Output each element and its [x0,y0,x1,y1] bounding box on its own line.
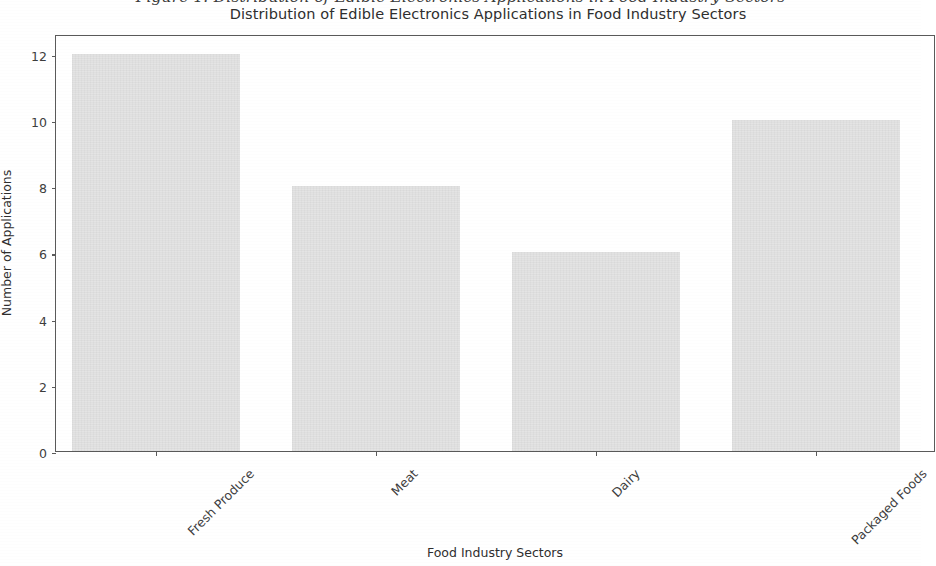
plot-area [56,34,936,451]
bar [732,120,899,451]
y-tick-label: 12 [31,48,47,63]
y-tick-label: 6 [39,247,47,262]
y-tick-mark [52,122,57,123]
y-tick-label: 0 [39,446,47,461]
bar [292,186,459,451]
y-tick-label: 2 [39,379,47,394]
y-tick-mark [52,254,57,255]
x-tick-label: Dairy [609,466,643,500]
y-axis-title: Number of Applications [0,170,14,317]
y-tick-mark [52,321,57,322]
x-tick-label: Meat [388,466,421,499]
x-tick-label: Packaged Foods [848,466,929,547]
bar [512,252,679,451]
y-tick-mark [52,56,57,57]
y-tick-label: 10 [31,115,47,130]
bar [72,54,239,451]
y-tick-mark [52,188,57,189]
x-tick-mark [816,451,817,456]
y-tick-label: 8 [39,181,47,196]
x-axis-title: Food Industry Sectors [55,545,935,560]
x-tick-label: Fresh Produce [185,466,257,538]
y-tick-mark [52,453,57,454]
chart-title: Distribution of Edible Electronics Appli… [55,6,921,22]
plot-axes: 024681012 [55,35,935,452]
x-tick-mark [156,451,157,456]
y-tick-mark [52,387,57,388]
x-tick-mark [596,451,597,456]
y-tick-label: 4 [39,313,47,328]
x-tick-mark [376,451,377,456]
